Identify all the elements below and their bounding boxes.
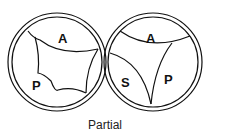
right-valve-outer-ring: [104, 13, 202, 111]
right-label-anterior: A: [146, 31, 156, 46]
right-valve-septal-leaflet-edge: [110, 53, 151, 104]
left-valve-inner-ring: [12, 17, 102, 107]
figure-caption: Partial: [0, 118, 210, 132]
left-valve: [8, 13, 106, 111]
valve-diagram: A P A S P: [0, 0, 225, 134]
right-valve: [104, 13, 202, 111]
right-label-posterior: P: [164, 72, 173, 87]
right-label-septal: S: [121, 75, 130, 90]
left-label-anterior: A: [58, 31, 68, 46]
left-valve-commissure-edge-right: [86, 49, 98, 93]
left-label-posterior: P: [32, 78, 41, 93]
